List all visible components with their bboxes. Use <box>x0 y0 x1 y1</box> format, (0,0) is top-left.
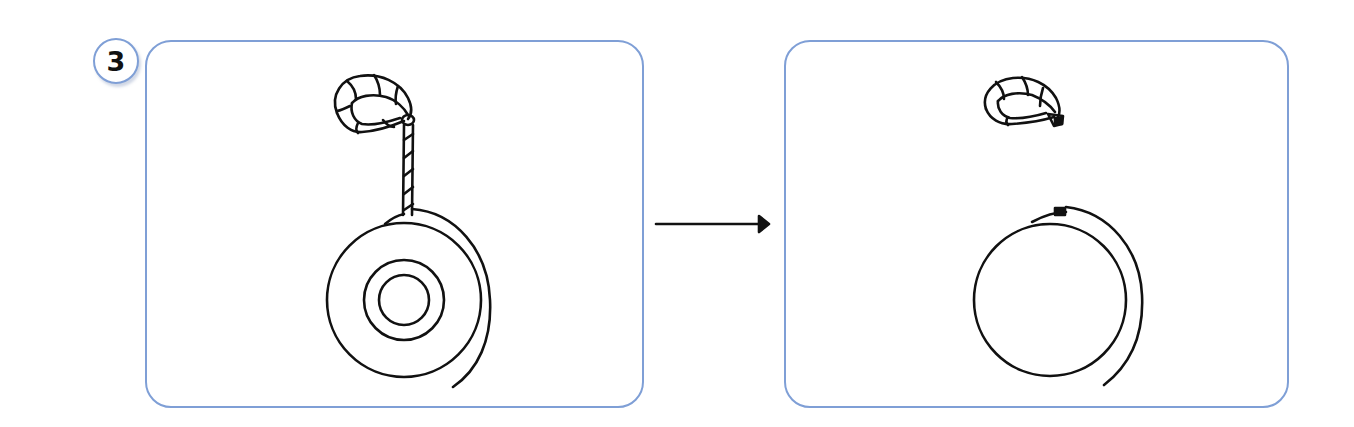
arrow-right-icon <box>656 216 769 232</box>
tape-roll-with-core-icon <box>327 209 490 387</box>
string-loop-icon <box>335 75 414 133</box>
tape-roll-icon <box>974 207 1142 385</box>
string-coil-icon <box>985 77 1063 126</box>
string-icon <box>403 125 413 215</box>
illustration-layer <box>0 0 1354 427</box>
